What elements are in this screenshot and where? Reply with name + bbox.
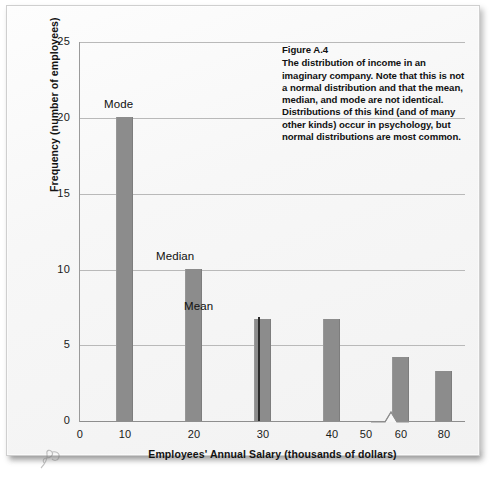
x-tick-60: 60: [386, 428, 416, 440]
plot-area: Frequency (number of employees) 25 20 15…: [79, 42, 465, 422]
gridline-5: [80, 345, 465, 346]
y-tick-25: 25: [40, 35, 70, 47]
y-tick-15: 15: [40, 187, 70, 199]
bar-80: [435, 371, 452, 421]
x-tick-20: 20: [179, 428, 209, 440]
bar-20: [185, 269, 202, 421]
x-axis-label: Employees' Annual Salary (thousands of d…: [80, 448, 465, 460]
bar-30: [254, 319, 271, 421]
gridline-20: [80, 118, 465, 119]
annotation-median: Median: [156, 250, 194, 262]
bar-10: [116, 117, 133, 421]
x-tick-30: 30: [248, 428, 278, 440]
x-tick-0: 0: [65, 428, 95, 440]
x-tick-40: 40: [317, 428, 347, 440]
x-tick-10: 10: [110, 428, 140, 440]
annotation-mode: Mode: [104, 98, 133, 110]
axis-break-icon: [371, 410, 409, 424]
figure-page: Figure A.4 The distribution of income in…: [0, 0, 492, 490]
y-tick-0: 0: [40, 414, 70, 426]
x-tick-50: 50: [351, 428, 381, 440]
bar-40: [323, 319, 340, 421]
scanned-page-sheet: Figure A.4 The distribution of income in…: [6, 5, 480, 456]
gridline-10: [80, 270, 465, 271]
y-tick-10: 10: [40, 263, 70, 275]
y-tick-5: 5: [40, 338, 70, 350]
gridline-15: [80, 194, 465, 195]
scribble-artifact: [35, 446, 75, 472]
mean-indicator-line: [258, 317, 260, 421]
gridline-25: [80, 42, 465, 43]
x-tick-80: 80: [429, 428, 459, 440]
annotation-mean: Mean: [184, 300, 213, 312]
y-tick-20: 20: [40, 111, 70, 123]
